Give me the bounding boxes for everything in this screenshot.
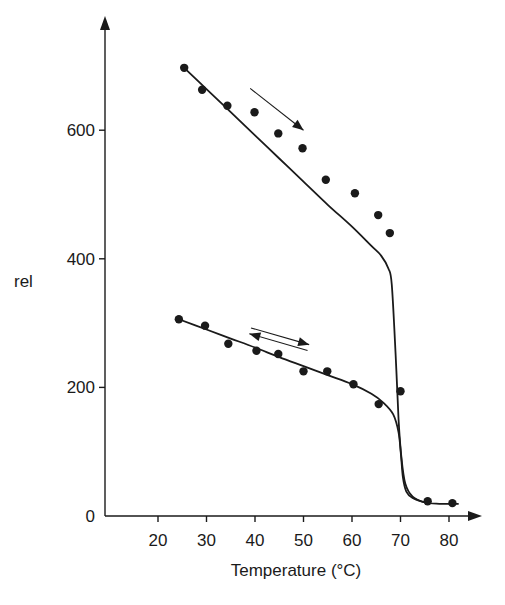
data-point: [299, 367, 307, 375]
data-point: [223, 102, 231, 110]
data-point: [423, 497, 431, 505]
x-tick-label: 60: [343, 531, 362, 550]
y-axis-title: rel: [14, 272, 33, 291]
arrow-head-icon: [297, 337, 309, 346]
y-tick-label: 200: [67, 378, 95, 397]
data-point: [386, 229, 394, 237]
data-point: [298, 144, 306, 152]
y-tick-label: 400: [67, 250, 95, 269]
data-point: [252, 347, 260, 355]
direction-arrows: [249, 88, 309, 350]
data-point: [396, 387, 404, 395]
data-point: [374, 400, 382, 408]
data-point: [322, 176, 330, 184]
x-tick-label: 80: [440, 531, 459, 550]
y-ticks: 0200400600: [67, 121, 105, 526]
data-point: [349, 380, 357, 388]
data-point: [250, 108, 258, 116]
x-tick-label: 30: [197, 531, 216, 550]
data-point: [201, 321, 209, 329]
arrow-head-icon: [249, 332, 261, 341]
x-axis-title: Temperature (°C): [231, 561, 362, 580]
x-ticks: 20304050607080: [149, 516, 459, 550]
data-points: [175, 64, 457, 508]
data-point: [374, 211, 382, 219]
data-point: [323, 367, 331, 375]
chart: 0200400600 20304050607080 Temperature (°…: [0, 0, 505, 605]
data-point: [448, 499, 456, 507]
x-tick-label: 70: [391, 531, 410, 550]
fit-curve-1: [184, 68, 459, 504]
y-tick-label: 600: [67, 121, 95, 140]
data-point: [224, 339, 232, 347]
y-tick-label: 0: [86, 507, 95, 526]
y-axis-arrow-icon: [100, 16, 110, 30]
data-point: [175, 315, 183, 323]
data-point: [274, 350, 282, 358]
x-tick-label: 50: [294, 531, 313, 550]
fit-curves: [179, 68, 459, 504]
fit-curve-2: [179, 319, 425, 502]
axes: [100, 16, 482, 521]
x-tick-label: 20: [149, 531, 168, 550]
data-point: [351, 189, 359, 197]
data-point: [180, 64, 188, 72]
data-point: [274, 129, 282, 137]
arrow-head-icon: [292, 120, 303, 130]
x-axis-arrow-icon: [468, 511, 482, 521]
x-tick-label: 40: [246, 531, 265, 550]
data-point: [198, 85, 206, 93]
